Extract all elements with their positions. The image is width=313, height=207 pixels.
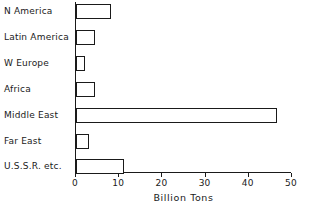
x-axis-tick <box>161 173 162 177</box>
x-axis-tick-label: 50 <box>285 178 297 188</box>
x-axis-tick-label: 30 <box>199 178 211 188</box>
x-axis-tick <box>291 173 292 177</box>
category-label: Middle East <box>4 110 72 120</box>
category-label: U.S.S.R. etc. <box>4 161 72 171</box>
bar <box>76 4 111 19</box>
bar <box>76 134 89 149</box>
x-axis-tick <box>205 173 206 177</box>
category-label: W Europe <box>4 58 72 68</box>
bar <box>76 108 277 123</box>
bar <box>76 159 124 174</box>
x-axis-tick <box>248 173 249 177</box>
x-axis-tick-label: 10 <box>112 178 124 188</box>
bar <box>76 56 85 71</box>
x-axis-tick <box>75 173 76 177</box>
category-label: N America <box>4 6 72 16</box>
category-label: Latin America <box>4 32 72 42</box>
chart-plot-area: N AmericaLatin AmericaW EuropeAfricaMidd… <box>0 0 313 207</box>
x-axis-tick-label: 0 <box>72 178 78 188</box>
x-axis-title: Billion Tons <box>0 192 313 203</box>
x-axis-tick-label: 20 <box>155 178 167 188</box>
category-label: Africa <box>4 84 72 94</box>
category-label: Far East <box>4 136 72 146</box>
x-axis-tick <box>118 173 119 177</box>
x-axis-title-text: Billion Tons <box>153 192 213 203</box>
bar-chart-screenshot: N AmericaLatin AmericaW EuropeAfricaMidd… <box>0 0 313 207</box>
x-axis-tick-label: 40 <box>242 178 254 188</box>
bar <box>76 30 95 45</box>
bar <box>76 82 95 97</box>
